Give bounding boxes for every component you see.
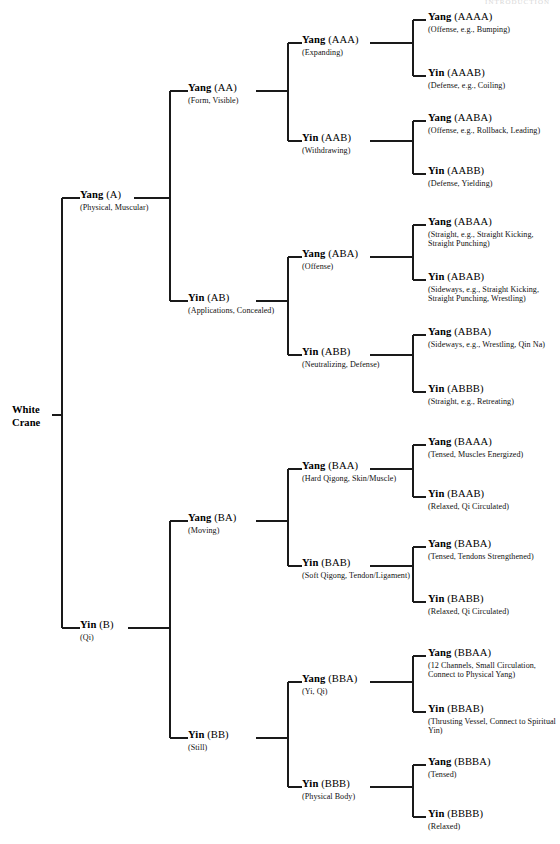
tree-node-AABB[interactable]: Yin (AABB) (Defense, Yielding) [428, 166, 492, 188]
tree-node-ABBB[interactable]: Yin (ABBB) (Straight, e.g., Retreating) [428, 384, 514, 406]
tree-node-AB[interactable]: Yin (AB) (Applications, Concealed) [188, 293, 274, 315]
tree-node-A[interactable]: Yang (A) (Physical, Muscular) [80, 190, 148, 212]
tree-node-BAA-desc: (Hard Qigong, Skin/Muscle) [302, 474, 396, 484]
tree-node-BBA[interactable]: Yang (BBA) (Yi, Qi) [302, 674, 357, 696]
tree-node-ABAA-desc: (Straight, e.g., Straight Kicking, Strai… [428, 230, 560, 250]
tree-node-AABA[interactable]: Yang (AABA) (Offense, e.g., Rollback, Le… [428, 113, 540, 135]
tree-node-AABB-desc: (Defense, Yielding) [428, 179, 492, 189]
tree-node-BAAA-polarity: Yang [428, 436, 451, 447]
tree-node-BBAB-code: (BBAB) [447, 703, 484, 714]
tree-node-BBB-desc: (Physical Body) [302, 792, 355, 802]
tree-node-BBAA-polarity: Yang [428, 647, 451, 658]
tree-node-BAAA[interactable]: Yang (BAAA) (Tensed, Muscles Energized) [428, 437, 523, 459]
tree-node-ABB-code: (ABB) [321, 346, 350, 357]
tree-node-BBA-code: (BBA) [328, 673, 357, 684]
tree-node-A-code: (A) [106, 189, 121, 200]
tree-node-AA-title: Yang (AA) [188, 83, 238, 94]
tree-node-BABB-title: Yin (BABB) [428, 594, 509, 605]
tree-node-BBBB-desc: (Relaxed) [428, 822, 483, 832]
tree-node-A-desc: (Physical, Muscular) [80, 203, 148, 213]
tree-node-ABB[interactable]: Yin (ABB) (Neutralizing, Defense) [302, 347, 380, 369]
tree-node-BBBB-title: Yin (BBBB) [428, 809, 483, 820]
tree-node-AAB-title: Yin (AAB) [302, 133, 351, 144]
tree-node-AAB-polarity: Yin [302, 132, 318, 143]
tree-node-AAA[interactable]: Yang (AAA) (Expanding) [302, 35, 359, 57]
tree-node-AAAB[interactable]: Yin (AAAB) (Defense, e.g., Coiling) [428, 68, 505, 90]
tree-node-AAAA-code: (AAAA) [454, 11, 492, 22]
tree-node-ABA-code: (ABA) [328, 248, 358, 259]
tree-node-B-polarity: Yin [80, 619, 96, 630]
tree-node-ABA[interactable]: Yang (ABA) (Offense) [302, 249, 358, 271]
tree-node-BBBB[interactable]: Yin (BBBB) (Relaxed) [428, 809, 483, 831]
tree-node-AABB-polarity: Yin [428, 165, 444, 176]
tree-node-BA-title: Yang (BA) [188, 513, 236, 524]
white-crane-yin-yang-tree-diagram: INTRODUCTION White Crane Yang (A) (Physi… [0, 0, 560, 844]
tree-node-ABAB-desc: (Sideways, e.g., Straight Kicking, Strai… [428, 285, 560, 305]
tree-node-AAAB-title: Yin (AAAB) [428, 68, 505, 79]
tree-node-BBAA[interactable]: Yang (BBAA) (12 Channels, Small Circulat… [428, 648, 560, 680]
tree-node-ABBB-desc: (Straight, e.g., Retreating) [428, 397, 514, 407]
tree-node-AAA-polarity: Yang [302, 34, 325, 45]
tree-node-BB-code: (BB) [207, 729, 229, 740]
tree-node-BAB-code: (BAB) [321, 557, 350, 568]
tree-node-AB-polarity: Yin [188, 292, 204, 303]
tree-node-BBAA-desc: (12 Channels, Small Circulation, Connect… [428, 661, 560, 681]
tree-node-BBAB[interactable]: Yin (BBAB) (Thrusting Vessel, Connect to… [428, 704, 560, 736]
tree-node-BA-polarity: Yang [188, 512, 211, 523]
tree-node-ABAB-polarity: Yin [428, 271, 444, 282]
tree-node-AAA-code: (AAA) [328, 34, 359, 45]
tree-node-BBB[interactable]: Yin (BBB) (Physical Body) [302, 779, 355, 801]
tree-node-ABBA[interactable]: Yang (ABBA) (Sideways, e.g., Wrestling, … [428, 327, 545, 349]
tree-node-ABA-polarity: Yang [302, 248, 325, 259]
tree-node-ABB-desc: (Neutralizing, Defense) [302, 360, 380, 370]
tree-node-ABAA[interactable]: Yang (ABAA) (Straight, e.g., Straight Ki… [428, 217, 560, 249]
tree-node-BBBA-polarity: Yang [428, 756, 451, 767]
tree-node-B[interactable]: Yin (B) (Qi) [80, 620, 114, 642]
tree-node-BBAA-code: (BBAA) [454, 647, 491, 658]
tree-node-AAAA-desc: (Offense, e.g., Bumping) [428, 25, 510, 35]
tree-node-BBA-polarity: Yang [302, 673, 325, 684]
tree-node-ABAA-title: Yang (ABAA) [428, 217, 560, 228]
tree-node-ABBA-code: (ABBA) [454, 326, 491, 337]
tree-node-AAAA-polarity: Yang [428, 11, 451, 22]
tree-node-BABB-code: (BABB) [447, 593, 484, 604]
tree-node-AAA-desc: (Expanding) [302, 48, 359, 58]
tree-node-BAAA-code: (BAAA) [454, 436, 492, 447]
tree-node-BBB-polarity: Yin [302, 778, 318, 789]
tree-node-BAAB-desc: (Relaxed, Qi Circulated) [428, 502, 509, 512]
tree-node-B-desc: (Qi) [80, 633, 114, 643]
tree-node-BBBB-code: (BBBB) [447, 808, 483, 819]
tree-node-BBA-title: Yang (BBA) [302, 674, 357, 685]
tree-node-AAB[interactable]: Yin (AAB) (Withdrawing) [302, 133, 351, 155]
tree-node-BABB[interactable]: Yin (BABB) (Relaxed, Qi Circulated) [428, 594, 509, 616]
tree-node-AAA-title: Yang (AAA) [302, 35, 359, 46]
tree-node-BBAB-title: Yin (BBAB) [428, 704, 560, 715]
tree-node-BAAB[interactable]: Yin (BAAB) (Relaxed, Qi Circulated) [428, 489, 509, 511]
tree-node-B-code: (B) [99, 619, 113, 630]
tree-node-root[interactable]: White Crane [12, 404, 40, 429]
tree-node-ABAA-code: (ABAA) [454, 216, 492, 227]
tree-node-BBA-desc: (Yi, Qi) [302, 687, 357, 697]
tree-node-BAB[interactable]: Yin (BAB) (Soft Qigong, Tendon/Ligament) [302, 558, 410, 580]
tree-node-AAAA-title: Yang (AAAA) [428, 12, 510, 23]
tree-node-BBBA-code: (BBBA) [454, 756, 491, 767]
tree-node-ABBB-code: (ABBB) [447, 383, 484, 394]
tree-node-AA[interactable]: Yang (AA) (Form, Visible) [188, 83, 238, 105]
page-header-watermark: INTRODUCTION [485, 0, 550, 6]
tree-node-ABBA-title: Yang (ABBA) [428, 327, 545, 338]
tree-node-BAA-title: Yang (BAA) [302, 461, 396, 472]
tree-node-BAAB-code: (BAAB) [447, 488, 484, 499]
tree-node-ABA-desc: (Offense) [302, 262, 358, 272]
tree-node-BAAB-title: Yin (BAAB) [428, 489, 509, 500]
tree-node-BA[interactable]: Yang (BA) (Moving) [188, 513, 236, 535]
tree-node-BBBA[interactable]: Yang (BBBA) (Tensed) [428, 757, 491, 779]
tree-node-BBAB-polarity: Yin [428, 703, 444, 714]
tree-node-BB[interactable]: Yin (BB) (Still) [188, 730, 229, 752]
tree-node-AB-desc: (Applications, Concealed) [188, 306, 274, 316]
tree-node-BABA[interactable]: Yang (BABA) (Tensed, Tendons Strengthene… [428, 539, 534, 561]
tree-node-AAAB-polarity: Yin [428, 67, 444, 78]
tree-node-ABAB[interactable]: Yin (ABAB) (Sideways, e.g., Straight Kic… [428, 272, 560, 304]
tree-node-AAAA[interactable]: Yang (AAAA) (Offense, e.g., Bumping) [428, 12, 510, 34]
tree-node-BAB-desc: (Soft Qigong, Tendon/Ligament) [302, 571, 410, 581]
tree-node-BAA[interactable]: Yang (BAA) (Hard Qigong, Skin/Muscle) [302, 461, 396, 483]
